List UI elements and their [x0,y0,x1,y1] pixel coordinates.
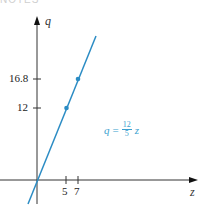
equation-lhs: q [104,124,110,136]
fraction-denominator: 5 [125,130,129,138]
y-axis-arrow-icon [34,16,40,25]
equation-fraction: 12 5 [122,121,132,138]
chart-canvas [0,0,205,213]
x-axis-label: z [190,186,195,198]
equation-annotation: q = 12 5 z [104,121,139,138]
x-axis-arrow-icon [189,177,198,183]
equation-variable: z [135,124,139,136]
series-line [28,36,96,204]
x-tick-label-5: 5 [62,186,68,197]
data-point-5-12 [64,106,69,111]
y-tick-label-12: 12 [17,102,28,113]
x-tick-label-7: 7 [74,186,80,197]
equation-equals: = [113,124,119,136]
y-tick-label-16.8: 16.8 [9,73,28,84]
data-point-7-16.8 [76,77,81,82]
y-axis-label: q [45,15,51,27]
